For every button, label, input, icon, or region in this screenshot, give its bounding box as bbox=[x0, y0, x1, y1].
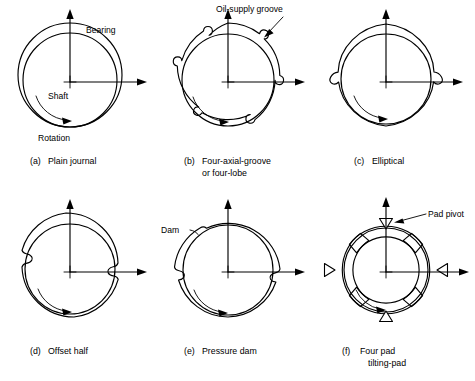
journal-bearing-figure: Bearing Shaft Rotation (a) Plain journal bbox=[0, 0, 475, 381]
rotation-arrow bbox=[193, 97, 229, 126]
caption-c: (c) Elliptical bbox=[354, 156, 404, 166]
label-pad-pivot: Pad pivot bbox=[428, 209, 464, 219]
caption-f-text1: Four pad bbox=[360, 346, 395, 356]
panel-four-axial-groove: Oil-supply groove (b) Four-axial-groove … bbox=[158, 0, 316, 190]
pad-pivot-bottom-icon bbox=[380, 311, 393, 322]
horizontal-axis-arrow bbox=[70, 78, 147, 85]
caption-b-label: (b) bbox=[184, 156, 195, 166]
panel-elliptical: (c) Elliptical bbox=[316, 0, 474, 190]
caption-d: (d) Offset half bbox=[30, 346, 88, 356]
label-rotation: Rotation bbox=[38, 133, 70, 143]
horizontal-axis-arrow bbox=[386, 78, 463, 85]
vertical-axis-arrow bbox=[66, 199, 73, 272]
label-oil-supply-groove: Oil-supply groove bbox=[216, 4, 283, 14]
rotation-arrow bbox=[354, 96, 388, 123]
vertical-axis-arrow bbox=[382, 9, 389, 82]
caption-d-label: (d) bbox=[30, 346, 41, 356]
panel-offset-half: (d) Offset half bbox=[0, 190, 158, 380]
vertical-axis-arrow bbox=[224, 199, 231, 272]
pad-pivot-right-icon bbox=[437, 264, 448, 277]
pressure-dam-outer-shell bbox=[175, 223, 281, 317]
caption-f-text2: tilting-pad bbox=[368, 358, 406, 368]
caption-d-text: Offset half bbox=[48, 346, 88, 356]
panel-pressure-dam: Dam (e) Pressure dam bbox=[158, 190, 316, 380]
caption-f: (f) Four pad tilting-pad bbox=[342, 346, 406, 368]
vertical-axis-arrow bbox=[66, 9, 73, 82]
caption-b-text1: Four-axial-groove bbox=[202, 156, 271, 166]
caption-e: (e) Pressure dam bbox=[184, 346, 257, 356]
oil-supply-groove-leader bbox=[264, 17, 283, 38]
pad-pivot-leader bbox=[394, 214, 426, 224]
rotation-arrow bbox=[194, 290, 228, 317]
caption-e-label: (e) bbox=[184, 346, 195, 356]
caption-b: (b) Four-axial-groove or four-lobe bbox=[184, 156, 271, 178]
horizontal-axis-arrow bbox=[228, 268, 305, 275]
label-dam: Dam bbox=[161, 225, 179, 235]
horizontal-axis-arrow bbox=[228, 78, 305, 85]
caption-f-label: (f) bbox=[342, 346, 350, 356]
panel-four-pad-tilting-pad: Pad pivot (f) Four pad tilting-pad bbox=[316, 190, 474, 380]
caption-a-label: (a) bbox=[30, 156, 41, 166]
panel-plain-journal: Bearing Shaft Rotation (a) Plain journal bbox=[0, 0, 158, 190]
pad-pivot-left-icon bbox=[325, 264, 336, 277]
label-shaft: Shaft bbox=[48, 91, 69, 101]
caption-c-text: Elliptical bbox=[372, 156, 404, 166]
caption-a-text: Plain journal bbox=[48, 156, 96, 166]
vertical-axis-arrow bbox=[382, 197, 389, 272]
caption-a: (a) Plain journal bbox=[30, 156, 96, 166]
caption-e-text: Pressure dam bbox=[202, 346, 257, 356]
rotation-arrow bbox=[356, 290, 386, 314]
caption-b-text2: or four-lobe bbox=[202, 168, 247, 178]
vertical-axis-arrow bbox=[224, 9, 231, 82]
caption-c-label: (c) bbox=[354, 156, 364, 166]
label-bearing: Bearing bbox=[86, 25, 116, 35]
